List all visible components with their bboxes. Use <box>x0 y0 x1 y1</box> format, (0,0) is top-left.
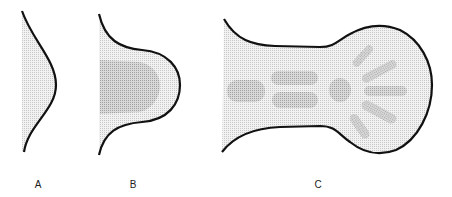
panel-c-zeugopod-lower <box>272 92 318 108</box>
panel-c-digit-ray-3 <box>364 86 407 96</box>
panel-c-zeugopod-upper <box>271 71 318 85</box>
panel-c-proximal-condensation <box>227 80 265 102</box>
panel-c-limb <box>222 19 432 153</box>
limb-development-diagram: A B C <box>0 0 452 197</box>
panel-b-label: B <box>130 179 137 190</box>
panel-b-limb-bud <box>99 14 180 155</box>
panel-a-limb-bud <box>22 11 56 152</box>
panel-c-label: C <box>314 179 321 190</box>
panel-b-condensation <box>100 60 160 114</box>
panel-c-carpal-condensation <box>329 78 351 102</box>
panel-a-tissue <box>22 11 56 152</box>
panel-a-label: A <box>35 179 42 190</box>
